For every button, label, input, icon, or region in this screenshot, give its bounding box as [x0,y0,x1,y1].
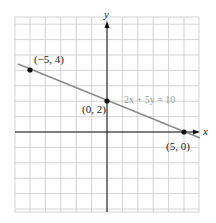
y-axis-label: y [103,8,109,20]
point-5-0 [181,129,186,134]
point-label-0-2: (0, 2) [82,103,106,116]
x-axis-label: x [202,125,208,137]
point-label-5-0: (5, 0) [166,140,190,153]
equation-label: 2x + 5y = 10 [124,94,175,105]
coordinate-plane: x y (−5, 4) (0, 2) (5, 0) 2x + 5y = 10 [0,0,216,223]
point-neg5-4 [27,67,32,72]
point-label-neg5-4: (−5, 4) [34,53,64,66]
